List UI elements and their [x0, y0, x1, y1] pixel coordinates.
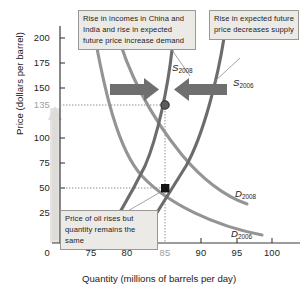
annotation-equilibrium: Price of oil rises but quantity remains …	[60, 210, 158, 250]
y-tick-150: 150	[20, 82, 50, 93]
curve-label-d2006-sub: 2006	[238, 233, 252, 240]
y-tick-50: 50	[20, 182, 50, 193]
curve-label-s2006: S2006	[233, 77, 254, 88]
annotation-supply-shift: Rise in expected future price decreases …	[209, 10, 299, 40]
x-tick-100: 100	[260, 247, 284, 258]
curve-label-d2008: D2008	[235, 188, 256, 199]
y-axis-title: Price (dollars per barrel)	[14, 19, 25, 149]
supply-shift-arrow	[174, 78, 227, 101]
y-tick-75: 75	[20, 157, 50, 168]
x-axis-title: Quantity (millions of barrels per day)	[82, 273, 236, 284]
x-tick-90: 90	[189, 247, 213, 258]
y-tick-175: 175	[20, 57, 50, 68]
y-tick-200: 200	[20, 32, 50, 43]
y-tick-25: 25	[20, 207, 50, 218]
curve-label-s2008: S2008	[172, 62, 193, 73]
annotation-demand-shift: Rise in incomes in China and India and r…	[78, 10, 196, 50]
oil-market-supply-demand-chart: 200 175 150 135 100 75 50 25 0 75 80 85 …	[0, 0, 308, 293]
curve-label-d2006: D2006	[231, 228, 252, 239]
curve-label-s2008-sub: 2008	[178, 67, 192, 74]
curve-label-s2006-sub: 2006	[239, 82, 253, 89]
curve-label-d2008-base: D	[235, 188, 242, 199]
curve-label-d2008-sub: 2008	[242, 193, 256, 200]
equilibrium-point-2006	[161, 184, 169, 192]
curve-label-d2006-base: D	[231, 228, 238, 239]
y-tick-100: 100	[20, 132, 50, 143]
x-tick-95: 95	[225, 247, 249, 258]
y-tick-0: 0	[20, 247, 50, 258]
y-tick-135: 135	[20, 99, 50, 110]
y-axis-ticks	[60, 38, 65, 213]
equilibrium-point-2008	[161, 101, 169, 109]
demand-curve-2008	[115, 26, 247, 204]
